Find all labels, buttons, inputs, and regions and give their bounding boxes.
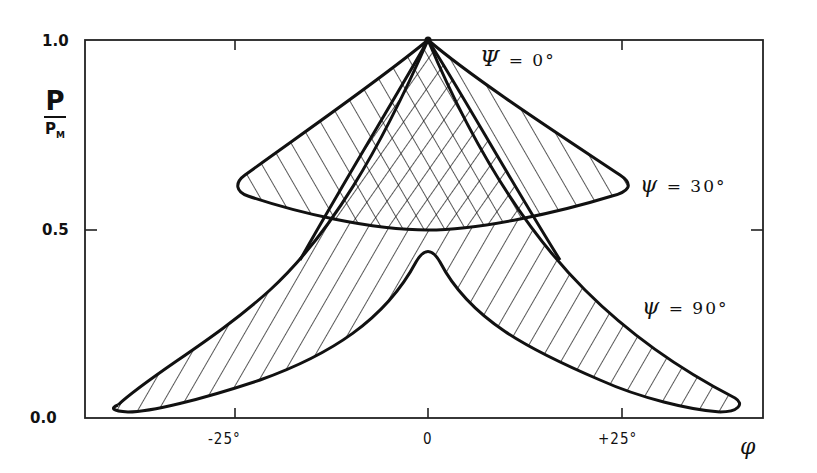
fraction-bar [44, 116, 66, 118]
x-ticks-bottom [235, 408, 622, 418]
y-axis-label: P PM [44, 88, 66, 143]
y-tick-label-0.0: 0.0 [30, 409, 57, 427]
x-tick-label-pos25: +25° [598, 430, 637, 448]
y-tick-label-0.5: 0.5 [42, 221, 69, 239]
y-axis-label-numerator: P [44, 88, 66, 114]
peak-point [425, 37, 432, 44]
chart-canvas [0, 0, 817, 473]
series-label-psi-0: Ψ = 0° [480, 46, 556, 71]
x-axis-label: φ [740, 434, 755, 459]
y-tick-label-1.0: 1.0 [42, 32, 69, 50]
x-tick-label-0: 0 [423, 430, 433, 448]
x-tick-label-neg25: -25° [208, 430, 241, 448]
series-label-psi-90: ψ = 90° [642, 294, 728, 319]
series-label-psi-30: ψ = 30° [640, 172, 726, 197]
y-axis-label-denominator: PM [44, 121, 66, 143]
